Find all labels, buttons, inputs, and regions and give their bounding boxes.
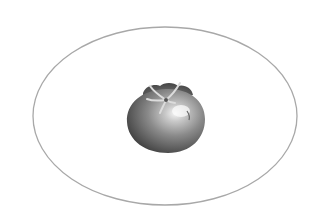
illustration-canvas bbox=[0, 0, 318, 222]
tomato-stem bbox=[164, 98, 168, 102]
illustration-scene bbox=[0, 0, 318, 222]
tomato-image bbox=[127, 83, 205, 153]
